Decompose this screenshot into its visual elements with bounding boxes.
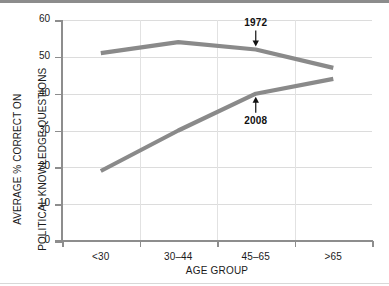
annotation-label-2008: 2008 [226,115,286,126]
figure: AVERAGE % CORRECT ON POLITICAL KNOWLEDGE… [0,0,389,286]
annotation-arrow-head [253,97,259,103]
annotation-label-1972: 1972 [226,17,286,28]
annotation-arrow-head [253,40,259,46]
series-line-2008 [101,79,333,171]
series-line-1972 [101,42,333,68]
x-axis-title: AGE GROUP [62,265,372,276]
plot-lines [0,0,389,286]
